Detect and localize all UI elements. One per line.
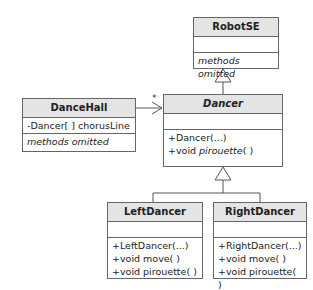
class-name: Dancer: [164, 95, 282, 114]
method: +void pirouette( ): [112, 265, 198, 278]
attributes-section: [194, 37, 278, 53]
method: +Dancer(...): [168, 131, 278, 144]
method: +void move( ): [112, 252, 198, 265]
class-dancehall: DanceHall -Dancer[ ] chorusLine methods …: [22, 98, 136, 152]
method-prefix: +void: [168, 145, 199, 156]
attributes-section: [164, 114, 282, 130]
methods-note: methods omitted: [194, 53, 278, 81]
class-leftdancer: LeftDancer +LeftDancer(...) +void move( …: [107, 202, 203, 279]
method-name: pirouette: [199, 145, 243, 156]
class-rightdancer: RightDancer +RightDancer(...) +void move…: [213, 202, 307, 279]
class-robotse: RobotSE methods omitted: [193, 17, 279, 69]
methods-section: +LeftDancer(...) +void move( ) +void pir…: [108, 238, 202, 279]
method: +LeftDancer(...): [112, 239, 198, 252]
class-name: DanceHall: [23, 99, 135, 118]
method: +void pirouette( ): [168, 144, 278, 157]
method: +RightDancer(...): [218, 239, 302, 252]
generalization-arrow-icon: [215, 167, 231, 180]
method: +void move( ): [218, 252, 302, 265]
method: +void pirouette( ): [218, 265, 302, 290]
methods-section: +Dancer(...) +void pirouette( ): [164, 130, 282, 158]
attributes-section: [214, 222, 306, 238]
multiplicity-label: *: [152, 93, 157, 103]
method-suffix: ( ): [243, 145, 253, 156]
class-name: LeftDancer: [108, 203, 202, 222]
class-name: RightDancer: [214, 203, 306, 222]
methods-note: methods omitted: [23, 134, 135, 149]
methods-section: +RightDancer(...) +void move( ) +void pi…: [214, 238, 306, 290]
class-dancer: Dancer +Dancer(...) +void pirouette( ): [163, 94, 283, 167]
attribute: -Dancer[ ] chorusLine: [23, 118, 135, 134]
attributes-section: [108, 222, 202, 238]
class-name: RobotSE: [194, 18, 278, 37]
